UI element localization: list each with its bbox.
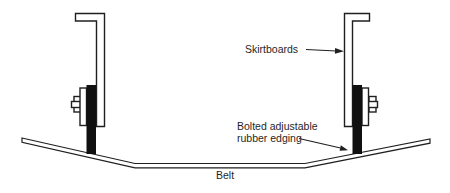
diagram-canvas: Skirtboards Bolted adjustable rubber edg… xyxy=(0,0,450,193)
left-rubber-strip xyxy=(87,85,97,154)
rubber-edging-label-line1: Bolted adjustable xyxy=(237,120,318,132)
belt-label: Belt xyxy=(216,169,234,181)
right-bolt-shaft xyxy=(369,102,378,108)
right-skirtboard-assembly xyxy=(345,14,378,155)
rubber-edging-label-line2: rubber edging xyxy=(237,132,302,144)
left-bolt-shaft xyxy=(72,102,81,108)
right-rubber-strip xyxy=(353,85,363,154)
left-skirtboard-assembly xyxy=(72,14,105,155)
skirtboard-diagram: Skirtboards Bolted adjustable rubber edg… xyxy=(0,0,450,193)
belt-band xyxy=(22,138,430,168)
skirtboards-label: Skirtboards xyxy=(245,43,298,55)
rubber-edging-leader-arrow-icon xyxy=(299,139,348,151)
right-clamp-plate xyxy=(362,88,369,126)
left-clamp-plate xyxy=(80,88,87,126)
skirtboards-leader-arrow-icon xyxy=(306,48,344,54)
